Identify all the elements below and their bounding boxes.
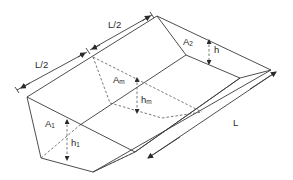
label-area-end-2: A2 xyxy=(183,37,193,48)
prismoid-body xyxy=(27,16,271,172)
depth-arrows xyxy=(67,40,209,160)
label-half-length-back: L/2 xyxy=(108,20,121,30)
label-length: L xyxy=(233,118,238,128)
label-depth-end-2: h xyxy=(214,45,219,55)
prismoid-diagram: L/2 L/2 L A2 h Am hm A1 h1 xyxy=(0,0,293,180)
dimension-half-length xyxy=(15,12,154,93)
dimension-length xyxy=(148,72,276,158)
label-depth-mid: hm xyxy=(141,95,152,106)
label-half-length-front: L/2 xyxy=(35,60,48,70)
prismoid-drawing xyxy=(0,0,293,180)
label-area-end-1: A1 xyxy=(45,119,55,130)
label-area-mid: Am xyxy=(113,75,125,86)
label-depth-end-1: h1 xyxy=(71,138,80,149)
